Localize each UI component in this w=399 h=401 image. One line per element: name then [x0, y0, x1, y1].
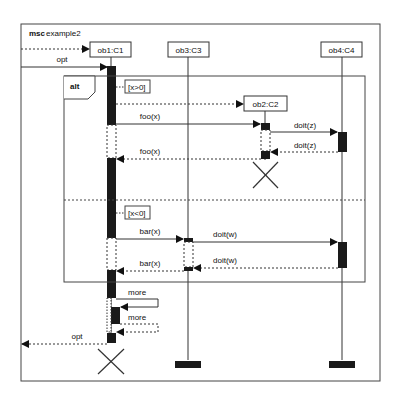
- activation-ob4-2: [338, 242, 347, 268]
- activation-ob1-final: [107, 333, 116, 343]
- message-more-self-call: [116, 299, 158, 307]
- diagram-title-name: example2: [46, 29, 81, 38]
- object-label-ob2: ob2:C2: [253, 100, 279, 109]
- activation-ob3-2: [184, 267, 193, 271]
- message-label-more-self-return: more: [128, 313, 147, 322]
- guard1-label: [x>0]: [128, 83, 146, 92]
- message-label-bar-call: bar(x): [140, 227, 161, 236]
- lifeline-end-ob4: [329, 361, 355, 368]
- message-label-foo-return: foo(x): [140, 147, 161, 156]
- alt-fragment-label: alt: [70, 82, 80, 91]
- diagram-title-keyword: msc: [29, 29, 46, 38]
- activation-ob1-suspended-3: [107, 298, 111, 332]
- activation-ob1-3: [107, 270, 116, 298]
- message-more-self-return: [117, 324, 158, 332]
- activation-ob3-1: [184, 238, 193, 242]
- message-label-foo-call: foo(x): [140, 112, 161, 121]
- message-label-doit-z-return: doit(z): [294, 141, 317, 150]
- message-label-doit-w-call: doit(w): [213, 230, 237, 239]
- object-label-ob1: ob1:C1: [98, 46, 124, 55]
- activation-ob1-suspended-2: [107, 238, 116, 270]
- alt-fragment-tab: [64, 76, 95, 99]
- message-label-more-self-call: more: [128, 288, 147, 297]
- activation-ob4-1: [338, 132, 347, 152]
- message-label-bar-return: bar(x): [140, 259, 161, 268]
- message-label-doit-w-return: doit(w): [213, 256, 237, 265]
- activation-ob2-2: [261, 151, 270, 159]
- activation-ob2-suspended: [261, 130, 270, 151]
- activation-ob1-suspended-1: [107, 125, 116, 158]
- object-label-ob4: ob4:C4: [329, 46, 355, 55]
- sequence-diagram: msc example2 ob1:C1 ob3:C3 ob4:C4 opt al…: [0, 0, 399, 401]
- activation-ob3-suspended: [184, 242, 193, 267]
- message-label-opt-in: opt: [56, 55, 68, 64]
- message-label-doit-z-call: doit(z): [294, 121, 317, 130]
- activation-ob1-nested: [111, 307, 120, 324]
- object-label-ob3: ob3:C3: [176, 46, 202, 55]
- message-label-opt-out: opt: [71, 332, 83, 341]
- guard2-label: [x<0]: [128, 209, 146, 218]
- lifeline-end-ob3: [175, 361, 201, 368]
- activation-ob2-1: [261, 123, 270, 130]
- activation-ob1-2: [107, 158, 116, 238]
